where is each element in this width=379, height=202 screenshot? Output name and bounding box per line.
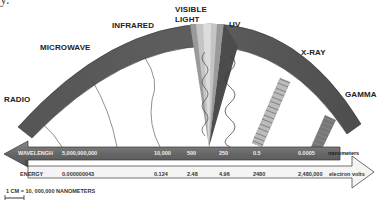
energy-value: 0.124 [154,171,168,177]
band-label-infrared: INFRARED [112,21,154,30]
wavelength-value: 500 [187,150,196,156]
wavelength-value: 5,000,000,000 [62,150,97,156]
wavelength-label: WAVELENGH [18,150,53,156]
wavelength-arrow [4,141,340,167]
band-label-xray: X-RAY [301,48,326,57]
energy-value: 0.000000043 [62,171,94,177]
band-label-microwave: MICROWAVE [40,43,91,52]
microwave-wave [92,80,117,147]
energy-label: ENERGY [20,171,43,177]
energy-unit: electron volts [329,171,365,177]
wavelength-value: 10,000 [154,150,171,156]
band-label-gamma: GAMMA [345,90,377,99]
scale-legend: 1 CM = 10, 000,000 NANOMETERS [6,188,95,194]
wavelength-value: 250 [219,150,228,156]
spectrum-arc [18,24,361,138]
xray-coil [252,78,290,147]
band-label-uv: UV [229,20,240,29]
infrared-wave [145,58,160,147]
radio-wave [44,125,62,147]
wavelength-value: 0.5 [253,150,261,156]
band-label-radio: RADIO [4,95,30,104]
band-label-visible: VISIBLE [175,5,207,14]
energy-value: 4.96 [219,171,230,177]
wavelength-unit: nanometers [328,150,359,156]
wavelength-value: 0.0005 [298,150,315,156]
energy-value: 2.48 [187,171,198,177]
band-label-light: LIGHT [175,15,200,24]
gamma-coil [311,115,336,147]
energy-value: 2480 [253,171,265,177]
energy-value: 2,480,000 [298,171,322,177]
